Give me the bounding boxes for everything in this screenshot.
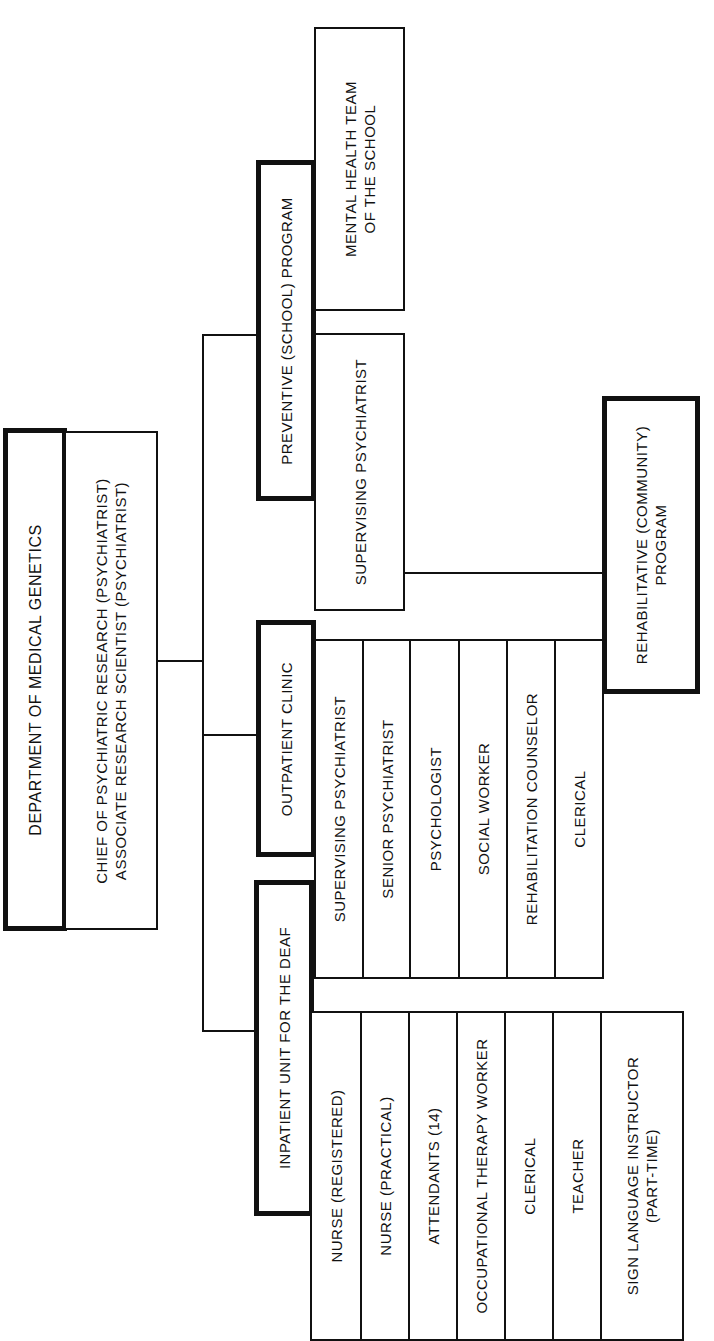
outpatient-staff-label: CLERICAL bbox=[570, 770, 589, 847]
outpatient-staff-label: SENIOR PSYCHIATRIST bbox=[377, 719, 396, 898]
associate-research-scientist: ASSOCIATE RESEARCH SCIENTIST (PSYCHIATRI… bbox=[111, 478, 130, 884]
inpatient-staff-0: NURSE (REGISTERED) bbox=[310, 1011, 362, 1341]
preventive-connector bbox=[202, 334, 258, 336]
preventive-supervisor: SUPERVISING PSYCHIATRIST bbox=[350, 359, 369, 586]
mental-health-team-line1: MENTAL HEALTH TEAM bbox=[341, 81, 360, 257]
preventive-program-title: PREVENTIVE (SCHOOL) PROGRAM bbox=[277, 197, 296, 465]
inpatient-staff-4: CLERICAL bbox=[504, 1011, 554, 1341]
sign-language-instructor: SIGN LANGUAGE INSTRUCTOR bbox=[623, 1057, 642, 1295]
outpatient-staff-3: SOCIAL WORKER bbox=[458, 639, 508, 979]
inpatient-staff-label: SIGN LANGUAGE INSTRUCTOR (PART-TIME) bbox=[623, 1057, 661, 1295]
root-connector bbox=[157, 660, 204, 662]
preventive-rehab-connector bbox=[404, 572, 604, 574]
inpatient-unit-title: INPATIENT UNIT FOR THE DEAF bbox=[275, 927, 294, 1169]
rehabilitative-program-box: REHABILITATIVE (COMMUNITY) PROGRAM bbox=[602, 396, 700, 694]
outpatient-staff-label: SOCIAL WORKER bbox=[474, 743, 493, 876]
mental-health-team-line2: OF THE SCHOOL bbox=[360, 81, 379, 257]
department-title: DEPARTMENT OF MEDICAL GENETICS bbox=[26, 524, 45, 835]
inpatient-staff-5: TEACHER bbox=[552, 1011, 602, 1341]
preventive-supervisor-box: SUPERVISING PSYCHIATRIST bbox=[314, 333, 405, 611]
outpatient-staff-label: SUPERVISING PSYCHIATRIST bbox=[330, 696, 349, 923]
inpatient-staff-2: ATTENDANTS (14) bbox=[408, 1011, 458, 1341]
rehab-title-line2: PROGRAM bbox=[651, 426, 670, 664]
research-staff: CHIEF OF PSYCHIATRIC RESEARCH (PSYCHIATR… bbox=[92, 478, 130, 884]
outpatient-staff-label: PSYCHOLOGIST bbox=[425, 747, 444, 871]
chief-psychiatric-research: CHIEF OF PSYCHIATRIC RESEARCH (PSYCHIATR… bbox=[92, 478, 111, 884]
inpatient-staff-label: CLERICAL bbox=[520, 1137, 539, 1214]
inpatient-staff-label: OCCUPATIONAL THERAPY WORKER bbox=[472, 1038, 491, 1313]
inpatient-staff-label: NURSE (REGISTERED) bbox=[327, 1089, 346, 1262]
outpatient-staff-1: SENIOR PSYCHIATRIST bbox=[362, 639, 411, 979]
mental-health-team: MENTAL HEALTH TEAM OF THE SCHOOL bbox=[341, 81, 379, 257]
rehab-title-line1: REHABILITATIVE (COMMUNITY) bbox=[632, 426, 651, 664]
inpatient-staff-label: ATTENDANTS (14) bbox=[424, 1107, 443, 1244]
outpatient-clinic-title: OUTPATIENT CLINIC bbox=[277, 661, 296, 815]
inpatient-staff-6: SIGN LANGUAGE INSTRUCTOR (PART-TIME) bbox=[600, 1011, 684, 1341]
outpatient-staff-4: REHABILITATION COUNSELOR bbox=[506, 639, 556, 979]
department-title-box: DEPARTMENT OF MEDICAL GENETICS bbox=[3, 428, 67, 931]
research-staff-box: CHIEF OF PSYCHIATRIC RESEARCH (PSYCHIATR… bbox=[64, 431, 158, 930]
trunk-line bbox=[202, 334, 204, 1032]
outpatient-staff-2: PSYCHOLOGIST bbox=[409, 639, 460, 979]
outpatient-staff-5: CLERICAL bbox=[554, 639, 604, 979]
part-time-note: (PART-TIME) bbox=[642, 1057, 661, 1295]
outpatient-staff-label: REHABILITATION COUNSELOR bbox=[522, 693, 541, 925]
inpatient-unit-box: INPATIENT UNIT FOR THE DEAF bbox=[254, 880, 314, 1216]
preventive-program-box: PREVENTIVE (SCHOOL) PROGRAM bbox=[256, 160, 316, 501]
inpatient-staff-label: NURSE (PRACTICAL) bbox=[376, 1096, 395, 1255]
rehabilitative-program-title: REHABILITATIVE (COMMUNITY) PROGRAM bbox=[632, 426, 670, 664]
mental-health-team-box: MENTAL HEALTH TEAM OF THE SCHOOL bbox=[314, 27, 405, 311]
outpatient-clinic-box: OUTPATIENT CLINIC bbox=[256, 620, 316, 857]
outpatient-connector bbox=[202, 734, 258, 736]
inpatient-staff-1: NURSE (PRACTICAL) bbox=[360, 1011, 410, 1341]
inpatient-connector bbox=[202, 1030, 258, 1032]
inpatient-staff-3: OCCUPATIONAL THERAPY WORKER bbox=[456, 1011, 506, 1341]
inpatient-staff-label: TEACHER bbox=[568, 1138, 587, 1213]
outpatient-staff-0: SUPERVISING PSYCHIATRIST bbox=[314, 639, 364, 979]
